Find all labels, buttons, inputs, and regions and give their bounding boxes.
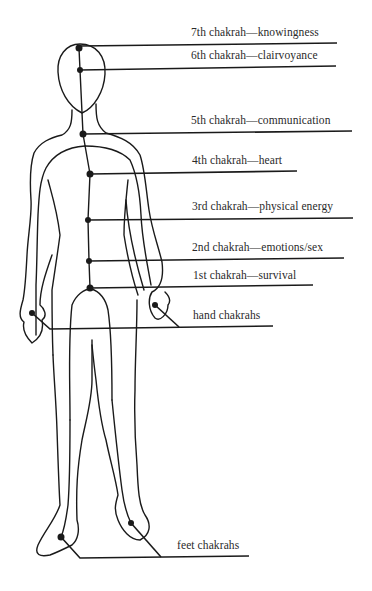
- label-6th-chakra: 6th chakrah—clairvoyance: [191, 50, 318, 62]
- spine-line: [79, 48, 90, 288]
- inner-arm-right: [85, 146, 151, 285]
- dot-1st: [87, 285, 94, 292]
- leader-7th: [79, 43, 337, 46]
- label-2nd-chakra: 2nd chakrah—emotions/sex: [192, 242, 323, 254]
- dot-5th: [80, 131, 87, 138]
- left-leg-inner: [61, 420, 70, 537]
- right-leg-inner: [112, 400, 131, 523]
- label-3rd-chakra: 3rd chakrah—physical energy: [192, 201, 333, 213]
- dot-6th: [77, 67, 83, 73]
- label-hand-chakrahs: hand chakrahs: [193, 310, 260, 322]
- dot-2nd: [86, 258, 92, 264]
- leader-6th: [80, 66, 336, 70]
- inner-arm-left: [36, 146, 85, 335]
- chakra-diagram: 7th chakrah—knowingness 6th chakrah—clai…: [0, 0, 372, 591]
- chakra-dots: [29, 45, 158, 541]
- torso-outline-left: [20, 110, 72, 343]
- dot-3rd: [85, 217, 91, 223]
- label-1st-chakra: 1st chakrah—survival: [193, 270, 296, 282]
- dot-hand-right: [152, 302, 158, 308]
- label-7th-chakra: 7th chakrah—knowingness: [191, 27, 319, 39]
- leader-1st: [90, 285, 313, 288]
- leader-4th: [90, 171, 297, 174]
- dot-4th: [87, 171, 94, 178]
- label-4th-chakra: 4th chakrah—heart: [192, 155, 282, 167]
- dot-hand-left: [29, 310, 35, 316]
- dot-7th: [76, 45, 83, 52]
- dot-foot-right: [128, 520, 134, 526]
- right-leg-outer: [92, 300, 149, 540]
- body-figure: [0, 0, 372, 591]
- label-5th-chakra: 5th chakrah—communication: [191, 115, 331, 127]
- leader-2nd: [89, 258, 344, 261]
- dot-foot-left: [58, 534, 65, 541]
- label-feet-chakrahs: feet chakrahs: [177, 540, 239, 552]
- leader-5th: [83, 131, 352, 134]
